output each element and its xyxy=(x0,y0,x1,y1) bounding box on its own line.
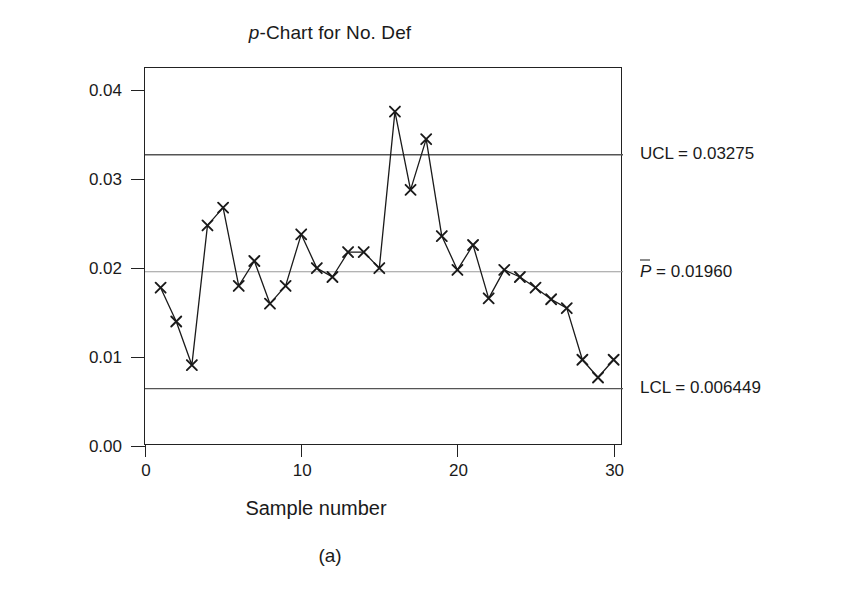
data-line xyxy=(161,112,614,378)
data-point-8 xyxy=(265,299,275,309)
y-tick-label-2: 0.02 xyxy=(89,259,122,279)
data-point-9 xyxy=(281,281,291,291)
annotation-center-value: = 0.01960 xyxy=(651,261,732,280)
x-tick-1: 10 xyxy=(301,444,302,457)
y-tick-2: 0.02 xyxy=(131,268,145,269)
data-point-10 xyxy=(296,229,306,239)
y-tick-3: 0.03 xyxy=(131,179,145,180)
data-markers xyxy=(156,107,619,383)
data-point-27 xyxy=(562,303,572,313)
data-point-7 xyxy=(249,256,259,266)
x-tick-2: 20 xyxy=(457,444,458,457)
data-point-28 xyxy=(577,355,587,365)
data-point-26 xyxy=(546,294,556,304)
data-point-25 xyxy=(531,283,541,293)
annotation-ucl: UCL = 0.03275 xyxy=(640,144,754,164)
chart-title-rest: -Chart for No. Def xyxy=(259,22,411,43)
y-tick-label-1: 0.01 xyxy=(89,348,122,368)
data-point-29 xyxy=(593,373,603,383)
x-tick-3: 30 xyxy=(614,444,615,457)
annotation-center: P = 0.01960 xyxy=(640,260,732,281)
x-tick-label-1: 10 xyxy=(293,461,312,481)
data-point-21 xyxy=(468,240,478,250)
data-point-1 xyxy=(156,283,166,293)
chart-canvas xyxy=(145,68,623,446)
annotation-lcl-text: LCL = 0.006449 xyxy=(640,378,761,397)
y-tick-label-3: 0.03 xyxy=(89,170,122,190)
data-point-5 xyxy=(218,203,228,213)
y-tick-label-0: 0.00 xyxy=(89,437,122,457)
p-chart-figure: p-Chart for No. Def 0.000.010.020.030.04… xyxy=(0,0,841,598)
figure-caption: (a) xyxy=(0,545,660,567)
annotation-center-symbol: P xyxy=(640,260,651,281)
annotation-ucl-text: UCL = 0.03275 xyxy=(640,144,754,163)
data-point-12 xyxy=(327,272,337,282)
x-tick-label-2: 20 xyxy=(449,461,468,481)
x-tick-label-3: 30 xyxy=(605,461,624,481)
y-tick-1: 0.01 xyxy=(131,357,145,358)
data-point-17 xyxy=(406,185,416,195)
data-point-2 xyxy=(171,316,181,326)
data-point-24 xyxy=(515,272,525,282)
x-tick-label-0: 0 xyxy=(141,461,150,481)
data-point-6 xyxy=(234,281,244,291)
data-point-20 xyxy=(452,265,462,275)
y-tick-4: 0.04 xyxy=(131,90,145,91)
y-tick-label-4: 0.04 xyxy=(89,81,122,101)
y-tick-0: 0.00 xyxy=(131,446,145,447)
chart-title-italic-p: p xyxy=(249,22,260,43)
data-point-30 xyxy=(609,355,619,365)
data-point-22 xyxy=(484,293,494,303)
chart-title: p-Chart for No. Def xyxy=(0,22,660,44)
x-axis-label: Sample number xyxy=(0,497,632,520)
x-tick-0: 0 xyxy=(145,444,146,457)
plot-area: 0.000.010.020.030.04 0102030 xyxy=(144,67,622,445)
annotation-lcl: LCL = 0.006449 xyxy=(640,378,761,398)
data-point-23 xyxy=(499,265,509,275)
